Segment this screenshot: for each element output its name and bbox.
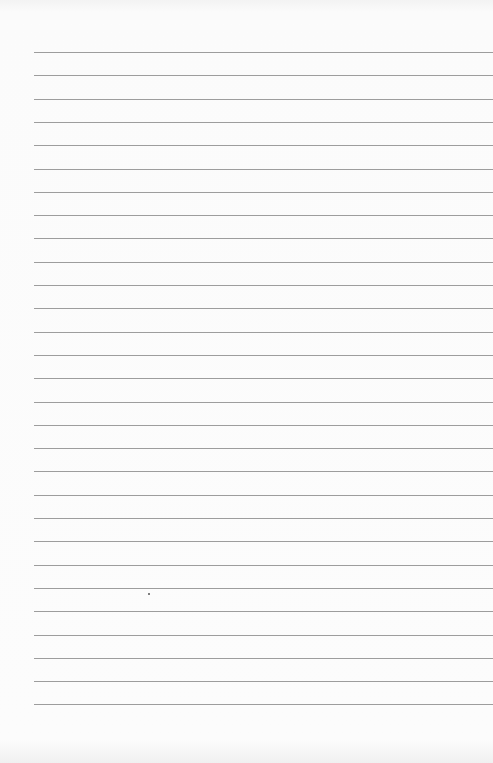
ruled-line [34,425,493,426]
ruled-line [34,635,493,636]
ruled-line [34,215,493,216]
ruled-line [34,518,493,519]
ruled-line [34,238,493,239]
ruled-line [34,99,493,100]
ruled-line [34,495,493,496]
ruled-line [34,588,493,589]
ruled-line [34,541,493,542]
ruled-line [34,378,493,379]
ruled-line [34,192,493,193]
lined-paper-sheet [0,0,493,763]
ruled-line [34,704,493,705]
ruled-line [34,611,493,612]
ruled-line [34,332,493,333]
ruled-line [34,471,493,472]
ruled-line [34,262,493,263]
ruled-line [34,402,493,403]
ruled-line [34,52,493,53]
ruled-line [34,122,493,123]
ruled-line [34,145,493,146]
ruled-line [34,448,493,449]
ruled-line [34,355,493,356]
ruled-line [34,169,493,170]
ruled-line [34,308,493,309]
ruled-line [34,565,493,566]
ruled-line [34,285,493,286]
ruled-line [34,681,493,682]
ruled-line [34,75,493,76]
ruled-line [34,658,493,659]
ink-dot [148,593,150,595]
